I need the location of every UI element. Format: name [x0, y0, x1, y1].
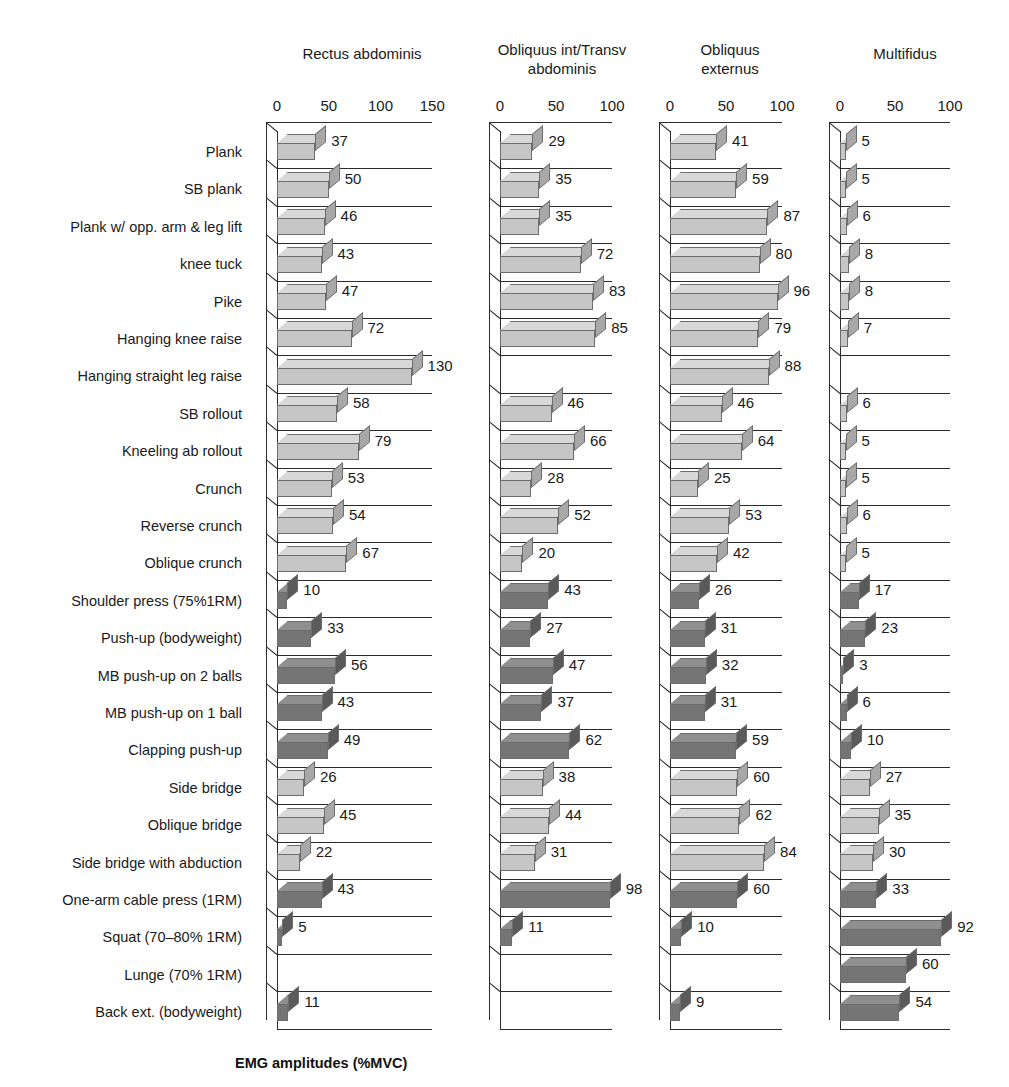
- bar: [840, 630, 865, 647]
- bar-value-label: 60: [922, 955, 939, 973]
- axis-depth-connector: [829, 234, 841, 244]
- bar-value-label: 6: [863, 506, 871, 524]
- axis-depth-connector: [829, 309, 841, 319]
- axis-depth-connector: [829, 608, 841, 618]
- panel-top-axis: [829, 122, 950, 123]
- bar-front-face: [840, 517, 847, 534]
- bar-side-face: [846, 425, 857, 451]
- bar-side-face: [847, 387, 858, 413]
- bar-side-face: [941, 911, 952, 937]
- bar-side-face: [849, 238, 860, 264]
- bar-side-face: [846, 163, 857, 189]
- bar: [840, 592, 859, 609]
- bar-value-label: 17: [875, 581, 892, 599]
- gridline: [840, 655, 950, 656]
- bar-side-face: [906, 948, 917, 974]
- bar-front-face: [840, 443, 846, 460]
- bar-value-label: 10: [867, 731, 884, 749]
- bar: [840, 480, 846, 497]
- bar-side-face: [846, 462, 857, 488]
- bar: [840, 779, 870, 796]
- bar-front-face: [840, 405, 847, 422]
- bar: [840, 330, 848, 347]
- figure-caption: EMG amplitudes (%MVC): [235, 1055, 407, 1071]
- axis-depth-connector: [829, 683, 841, 693]
- axis-depth-connector: [829, 571, 841, 581]
- gridline: [840, 580, 950, 581]
- bar-side-face: [899, 986, 910, 1012]
- bar-side-face: [846, 125, 857, 151]
- bar-value-label: 3: [859, 656, 867, 674]
- bar-side-face: [847, 686, 858, 712]
- bar-front-face: [840, 742, 851, 759]
- axis-depth-connector: [829, 160, 841, 170]
- bar-front-face: [840, 293, 849, 310]
- bar: [840, 293, 849, 310]
- bar-value-label: 5: [862, 469, 870, 487]
- gridline: [840, 355, 950, 356]
- bar-front-face: [840, 929, 941, 946]
- bar-value-label: 8: [865, 282, 873, 300]
- axis-depth-connector: [829, 459, 841, 469]
- bar: [840, 1004, 899, 1021]
- bar-value-label: 54: [915, 993, 932, 1011]
- bar-side-face: [876, 873, 887, 899]
- plot-panel-4: 556887655651723361027353033926054: [0, 0, 1009, 1087]
- bar-front-face: [840, 555, 846, 572]
- axis-depth-connector: [829, 870, 841, 880]
- bar-front-face: [840, 854, 873, 871]
- bar: [840, 181, 846, 198]
- bar-front-face: [840, 256, 849, 273]
- bar-value-label: 23: [881, 619, 898, 637]
- bar: [840, 966, 906, 983]
- bar-top-face: [840, 920, 952, 929]
- bar-value-label: 92: [957, 918, 974, 936]
- bar-value-label: 6: [863, 394, 871, 412]
- bar-value-label: 27: [886, 768, 903, 786]
- bar: [840, 443, 846, 460]
- emg-amplitude-grouped-bar-chart: Rectus abdominisObliquus int/Transv abdo…: [0, 0, 1009, 1087]
- bar-front-face: [840, 181, 846, 198]
- bar-value-label: 30: [889, 843, 906, 861]
- bar-side-face: [870, 761, 881, 787]
- bar-side-face: [847, 200, 858, 226]
- bar-value-label: 33: [892, 880, 909, 898]
- axis-depth-connector: [829, 982, 841, 992]
- axis-depth-connector: [829, 833, 841, 843]
- bar-front-face: [840, 218, 847, 235]
- bar-front-face: [840, 630, 865, 647]
- bar-side-face: [843, 649, 854, 675]
- bar-value-label: 5: [862, 432, 870, 450]
- gridline: [840, 916, 950, 917]
- bar-front-face: [840, 704, 847, 721]
- axis-depth-connector: [829, 122, 841, 132]
- bar: [840, 667, 843, 684]
- axis-depth-connector: [829, 347, 841, 357]
- axis-depth-connector: [829, 945, 841, 955]
- bar-value-label: 8: [865, 245, 873, 263]
- bar-value-label: 5: [862, 132, 870, 150]
- bar-front-face: [840, 330, 848, 347]
- axis-depth-connector: [829, 421, 841, 431]
- bar-front-face: [840, 592, 859, 609]
- bar-side-face: [865, 612, 876, 638]
- bar: [840, 891, 876, 908]
- bar-front-face: [840, 1004, 899, 1021]
- axis-depth-connector: [829, 758, 841, 768]
- bar: [840, 817, 879, 834]
- bar-front-face: [840, 891, 876, 908]
- bar-value-label: 5: [862, 170, 870, 188]
- axis-depth-connector: [829, 795, 841, 805]
- bar: [840, 517, 847, 534]
- axis-depth-connector: [829, 496, 841, 506]
- bar: [840, 256, 849, 273]
- bar-side-face: [848, 312, 859, 338]
- bar-value-label: 6: [863, 207, 871, 225]
- bar-front-face: [840, 966, 906, 983]
- axis-depth-connector: [829, 534, 841, 544]
- bar-side-face: [847, 499, 858, 525]
- gridline: [840, 991, 950, 992]
- axis-depth-connector: [829, 384, 841, 394]
- bar: [840, 555, 846, 572]
- bar-value-label: 7: [864, 319, 872, 337]
